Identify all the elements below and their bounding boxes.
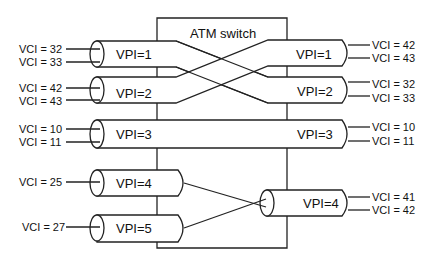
out-vci-label: VCI = 41 xyxy=(372,191,415,203)
out-vpi4-label: VPI=4 xyxy=(303,196,339,211)
pipe-end-in-vpi5 xyxy=(90,215,104,241)
atm-switch-diagram: ATM switch xyxy=(0,0,429,265)
pipe-end-in-vpi2 xyxy=(90,77,104,103)
pipe-end-out-vpi4 xyxy=(260,190,274,216)
out-vci-label: VCI = 43 xyxy=(372,52,415,64)
out-vci-label: VCI = 33 xyxy=(372,92,415,104)
in-vci-label: VCI = 10 xyxy=(19,123,62,135)
out-vpi3-label: VPI=3 xyxy=(297,127,333,142)
in-vci-label: VCI = 27 xyxy=(22,221,65,233)
in-vpi3-label: VPI=3 xyxy=(116,127,152,142)
in-vci-label: VCI = 32 xyxy=(19,43,62,55)
switch-title: ATM switch xyxy=(190,26,256,41)
out-vci-label: VCI = 42 xyxy=(372,39,415,51)
pipe-end-in-vpi1 xyxy=(90,41,104,67)
out-vci-label: VCI = 11 xyxy=(372,135,414,147)
out-vpi1-label: VPI=1 xyxy=(296,47,332,62)
output-vci-wires xyxy=(348,45,370,210)
in-vci-label: VCI = 11 xyxy=(19,136,61,148)
in-vci-label: VCI = 25 xyxy=(19,176,62,188)
pipe-end-in-vpi3 xyxy=(90,120,104,148)
out-vci-label: VCI = 10 xyxy=(372,121,415,133)
in-vpi5-label: VPI=5 xyxy=(116,221,152,236)
out-vci-label: VCI = 42 xyxy=(372,204,415,216)
in-vci-label: VCI = 43 xyxy=(19,95,62,107)
in-vpi2-label: VPI=2 xyxy=(116,86,152,101)
in-vpi4-label: VPI=4 xyxy=(116,176,152,191)
in-vci-label: VCI = 33 xyxy=(19,56,62,68)
in-vci-label: VCI = 42 xyxy=(19,82,62,94)
out-vpi2-label: VPI=2 xyxy=(297,84,333,99)
out-vci-label: VCI = 32 xyxy=(372,78,415,90)
merge-line-vpi5 xyxy=(184,199,266,228)
pipe-end-in-vpi4 xyxy=(90,170,104,196)
in-vpi1-label: VPI=1 xyxy=(116,47,152,62)
